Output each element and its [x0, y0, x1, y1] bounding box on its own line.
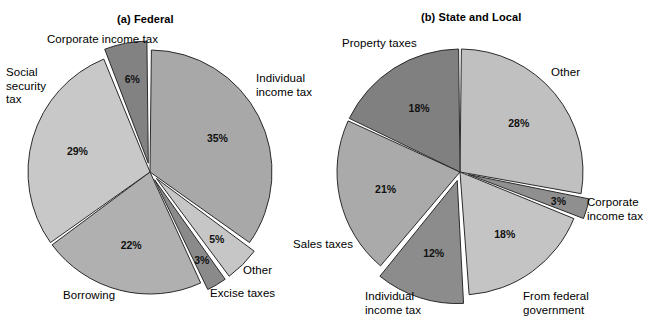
pie-label-individual-income-tax: Individual income tax [365, 290, 421, 317]
pie-label-from-federal-government: From federal government [523, 290, 589, 317]
slice-percent-label: 28% [508, 117, 530, 129]
slice-percent-label: 6% [125, 73, 141, 85]
pie-label-other: Other [243, 264, 272, 278]
pie-label-borrowing: Borrowing [63, 289, 115, 303]
slice-percent-label: 5% [209, 233, 225, 245]
pie-label-excise-taxes: Excise taxes [210, 287, 275, 301]
slice-percent-label: 3% [194, 254, 210, 266]
pie-federal: 35%5%3%22%29%6% [28, 41, 272, 294]
pie-label-corporate-income-tax: Corporate income tax [47, 33, 158, 47]
slice-percent-label: 3% [551, 195, 567, 207]
slice-percent-label: 22% [121, 239, 143, 251]
slice-percent-label: 18% [409, 102, 431, 114]
pie-label-sales-taxes: Sales taxes [293, 238, 353, 252]
figure-pie-charts: (a) Federal (b) State and Local 35%5%3%2… [0, 0, 661, 335]
pie-label-property-taxes: Property taxes [342, 37, 417, 51]
pie-state-and-local: 28%3%18%12%21%18% [337, 49, 589, 304]
pie-label-corporate-income-tax: Corporate income tax [587, 196, 643, 223]
pie-label-other: Other [551, 66, 580, 80]
pie-label-individual-income-tax: Individual income tax [256, 72, 312, 99]
slice-percent-label: 21% [375, 183, 397, 195]
slice-percent-label: 29% [67, 145, 89, 157]
pie-canvas: 35%5%3%22%29%6%28%3%18%12%21%18% [0, 0, 661, 335]
slice-percent-label: 35% [207, 132, 229, 144]
slice-percent-label: 12% [423, 247, 445, 259]
pie-label-social-security-tax: Social security tax [6, 66, 46, 107]
slice-percent-label: 18% [494, 228, 516, 240]
